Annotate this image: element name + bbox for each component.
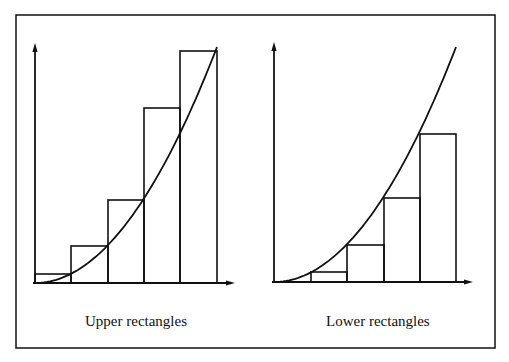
y-axis-arrow-icon [32,43,37,52]
x-axis-arrow-icon [464,279,473,284]
upper-rectangles [35,51,217,283]
rectangle [180,51,217,283]
upper-rectangles-caption: Upper rectangles [85,313,187,330]
lower-rectangles-panel [271,42,473,285]
rectangle [144,108,180,283]
rectangle [420,134,456,282]
x-axis-arrow-icon [226,280,235,285]
upper-curve [35,47,217,283]
figure-frame [16,15,495,348]
rectangle [108,200,144,283]
lower-curve [274,47,456,282]
rectangle [384,198,420,282]
y-axis-arrow-icon [271,42,276,51]
lower-rectangles-caption: Lower rectangles [326,313,430,330]
upper-rectangles-panel [32,43,235,286]
rectangle [347,245,384,282]
riemann-sum-figure [0,0,509,362]
lower-rectangles [311,134,456,282]
rectangle [311,272,347,282]
